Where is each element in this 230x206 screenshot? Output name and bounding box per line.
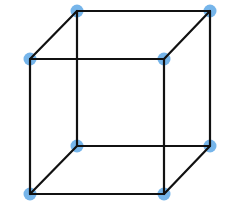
edge-bottom-back-right-to-bottom-front-right xyxy=(164,146,210,194)
cube-diagram xyxy=(0,0,230,206)
edges-layer xyxy=(30,11,210,194)
cube-svg xyxy=(0,0,230,206)
edge-bottom-back-left-to-bottom-front-left xyxy=(30,146,77,194)
edge-top-back-right-to-top-front-right xyxy=(164,11,210,59)
edge-top-back-left-to-top-front-left xyxy=(30,11,77,59)
